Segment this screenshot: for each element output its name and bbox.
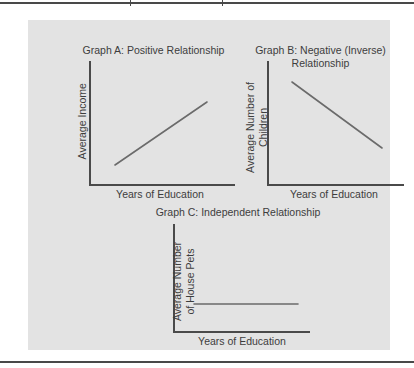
page-rule-top bbox=[0, 2, 414, 4]
graph-c-x-axis-label: Years of Education bbox=[168, 335, 316, 348]
graph-b-x-axis bbox=[267, 184, 404, 186]
rule-tick-left bbox=[130, 0, 131, 6]
graph-a-x-axis-label: Years of Education bbox=[85, 188, 235, 201]
graph-c-title: Graph C: Independent Relationship bbox=[128, 206, 348, 219]
graph-b-y-axis-label: Average Number of Children bbox=[244, 73, 269, 183]
graph-b: Graph B: Negative (Inverse) Relationship… bbox=[233, 44, 408, 204]
graph-b-x-axis-label: Years of Education bbox=[261, 188, 407, 201]
graph-c: Graph C: Independent Relationship Averag… bbox=[128, 206, 348, 366]
graph-b-trend-line bbox=[267, 61, 404, 184]
graph-a-x-axis bbox=[89, 184, 235, 186]
figure-panel: Graph A: Positive Relationship Average I… bbox=[28, 20, 390, 350]
graph-a-title: Graph A: Positive Relationship bbox=[66, 44, 241, 57]
graph-a-trend-line bbox=[89, 61, 235, 184]
graph-a-y-axis-label: Average Income bbox=[76, 66, 89, 176]
page-rule-bottom bbox=[0, 361, 414, 363]
graph-a: Graph A: Positive Relationship Average I… bbox=[66, 44, 241, 204]
graph-c-trend-line bbox=[173, 224, 310, 331]
rule-tick-right bbox=[222, 0, 223, 6]
